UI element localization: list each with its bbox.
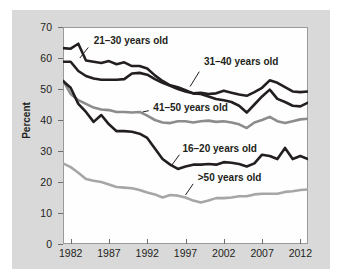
- y-tick-label: 50: [28, 83, 52, 95]
- series-line: [63, 81, 308, 169]
- x-tick-label: 1982: [59, 247, 82, 259]
- y-tick-label: 0: [28, 238, 52, 250]
- series-label: 16–20 years old: [182, 143, 257, 154]
- x-tick-mark: [147, 239, 148, 244]
- y-axis-tick-labels: 010203040506070: [26, 10, 52, 269]
- series-line: [63, 163, 308, 202]
- figure-panel: Percent 010203040506070 1982198719921997…: [12, 10, 330, 269]
- y-tick-label: 20: [28, 176, 52, 188]
- x-tick-mark: [300, 239, 301, 244]
- y-tick-label: 70: [28, 21, 52, 33]
- x-tick-mark: [71, 239, 72, 244]
- y-tick-label: 40: [28, 114, 52, 126]
- series-label: 21–30 years old: [94, 35, 169, 46]
- chart-plot-wrapper: Percent 010203040506070 1982198719921997…: [12, 10, 330, 269]
- series-label: 31–40 years old: [204, 56, 279, 67]
- x-tick-mark: [186, 239, 187, 244]
- x-tick-label: 2012: [289, 247, 312, 259]
- series-line: [63, 44, 308, 96]
- annotation-leader-line: [186, 184, 194, 195]
- x-tick-label: 2007: [250, 247, 273, 259]
- y-tick-mark: [58, 244, 63, 245]
- x-tick-label: 1987: [97, 247, 120, 259]
- y-tick-label: 60: [28, 52, 52, 64]
- y-tick-label: 30: [28, 145, 52, 157]
- series-label: 41–50 years old: [153, 102, 228, 113]
- x-tick-mark: [109, 239, 110, 244]
- annotation-leader-line: [190, 72, 199, 87]
- x-tick-mark: [262, 239, 263, 244]
- series-label: >50 years old: [198, 172, 262, 183]
- annotation-leader-line: [172, 155, 180, 166]
- x-tick-label: 1997: [174, 247, 197, 259]
- y-tick-label: 10: [28, 207, 52, 219]
- x-tick-mark: [224, 239, 225, 244]
- annotation-leader-line: [143, 111, 149, 112]
- x-tick-label: 1992: [136, 247, 159, 259]
- x-tick-label: 2002: [212, 247, 235, 259]
